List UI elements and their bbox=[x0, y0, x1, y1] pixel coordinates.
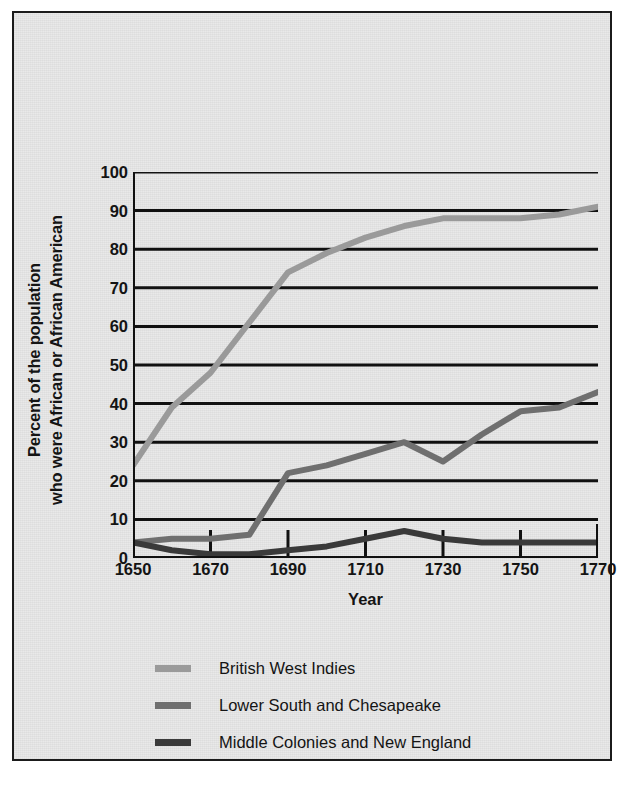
x-tick-label: 1670 bbox=[192, 560, 229, 579]
data-series-group bbox=[133, 207, 598, 554]
x-tick-label: 1710 bbox=[347, 560, 384, 579]
x-tick-label: 1770 bbox=[580, 560, 617, 579]
plot-area bbox=[133, 172, 598, 558]
y-axis-title-line-1: Percent of the population bbox=[25, 263, 44, 457]
y-axis-title-line-2: who were African or African American bbox=[47, 215, 66, 505]
y-tick-label: 10 bbox=[92, 510, 128, 529]
x-tick-label: 1690 bbox=[270, 560, 307, 579]
x-axis-title: Year bbox=[133, 590, 598, 609]
chart-figure: Percent of the population who were Afric… bbox=[0, 0, 638, 785]
x-tick-label: 1750 bbox=[502, 560, 539, 579]
y-tick-label: 50 bbox=[92, 356, 128, 375]
x-axis-tick-labels: 1650167016901710173017501770 bbox=[133, 560, 598, 586]
x-tick-label: 1650 bbox=[115, 560, 152, 579]
y-axis-title: Percent of the population who were Afric… bbox=[22, 160, 68, 560]
legend-label: British West Indies bbox=[219, 659, 355, 678]
legend-swatch bbox=[155, 665, 191, 672]
y-tick-label: 40 bbox=[92, 394, 128, 413]
legend-item: Middle Colonies and New England bbox=[155, 724, 585, 761]
y-tick-label: 100 bbox=[92, 163, 128, 182]
legend-label: Lower South and Chesapeake bbox=[219, 696, 441, 715]
y-tick-label: 20 bbox=[92, 471, 128, 490]
gridlines bbox=[133, 172, 598, 519]
legend-label: Middle Colonies and New England bbox=[219, 733, 471, 752]
x-tick-label: 1730 bbox=[425, 560, 462, 579]
line-chart-svg bbox=[133, 172, 598, 558]
series-line-0 bbox=[133, 207, 598, 466]
y-tick-label: 30 bbox=[92, 433, 128, 452]
y-axis-tick-labels: 0102030405060708090100 bbox=[88, 172, 128, 558]
y-tick-label: 80 bbox=[92, 240, 128, 259]
legend-item: Lower South and Chesapeake bbox=[155, 687, 585, 724]
chart-legend: British West IndiesLower South and Chesa… bbox=[155, 650, 585, 761]
y-tick-label: 60 bbox=[92, 317, 128, 336]
legend-swatch bbox=[155, 739, 191, 746]
legend-item: British West Indies bbox=[155, 650, 585, 687]
y-tick-label: 70 bbox=[92, 278, 128, 297]
y-tick-label: 90 bbox=[92, 201, 128, 220]
legend-swatch bbox=[155, 702, 191, 709]
